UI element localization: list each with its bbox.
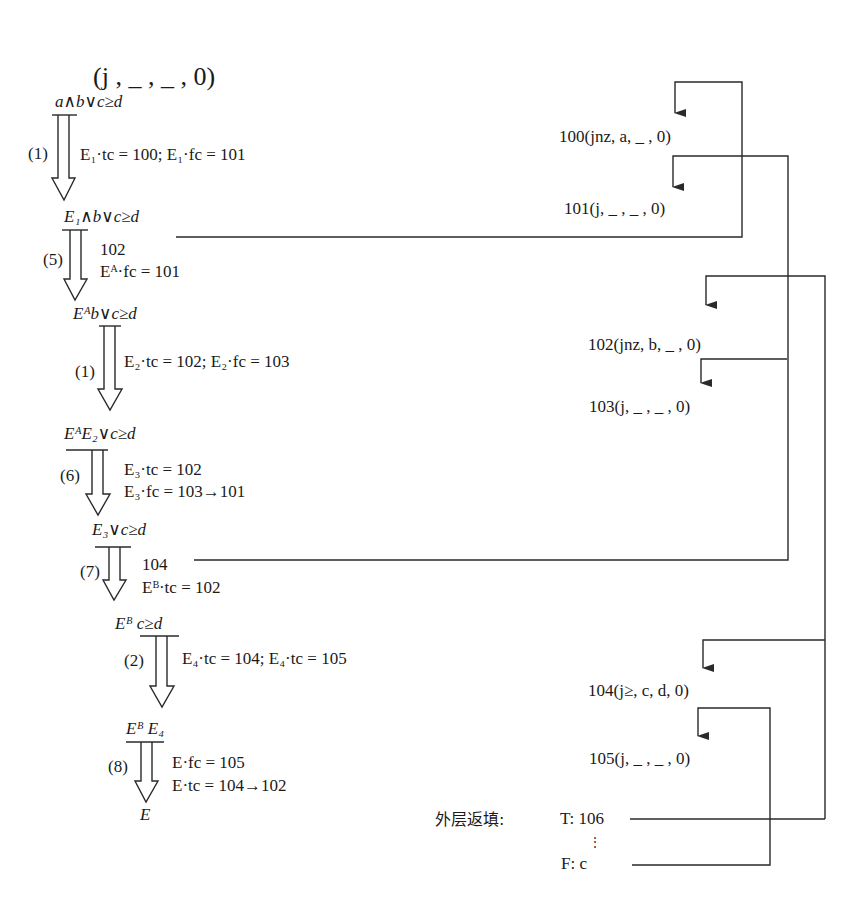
expression-6: Eᴮ E₄ [126,719,164,739]
rule-label: (2) [124,651,144,671]
ellipsis: ⋮ [589,832,601,852]
patch-line-102 [706,276,825,819]
derivation-arrow-8 [126,742,164,802]
true-exit: T: 106 [560,809,604,829]
expression-1: E₁∧b∨c≥d [64,207,139,227]
quadruple-103: 103(j, _ , _ , 0) [589,397,690,417]
backfill-label: 外层返填: [435,810,504,830]
step-annotation: E₁·tc = 100; E₁·fc = 101 [80,145,246,165]
rule-label: (5) [43,250,63,270]
quadruple-104: 104(j≥, c, d, 0) [588,681,689,701]
quadruple-100: 100(jnz, a, _ , 0) [559,127,671,147]
quadruple-101: 101(j, _ , _ , 0) [564,199,665,219]
expression-0: a∧b∨c≥d [55,92,122,112]
page-title: (j , _ , _ , 0) [93,62,215,92]
rule-label: (7) [80,562,100,582]
derivation-arrow-7 [95,547,131,600]
expression-2: Eᴬb∨c≥d [73,304,137,324]
derivation-arrow-1b [98,326,122,410]
expression-4: E₃∨c≥d [92,520,146,540]
step-annotation: Eᴮ·tc = 102 [142,578,220,598]
step-annotation: 102 [100,240,126,260]
step-annotation: E₃·tc = 102 [124,460,202,480]
step-annotation: E₄·tc = 104; E₄·tc = 105 [182,649,347,669]
expression-5: Eᴮ c≥d [115,614,162,634]
derivation-arrow-5 [62,230,88,300]
step-annotation: E₂·tc = 102; E₂·fc = 103 [124,352,290,372]
derivation-arrow-2 [140,636,179,707]
step-annotation: E·tc = 104→102 [172,776,286,796]
step-annotation: 104 [142,555,168,575]
patch-line-103 [701,359,787,383]
patch-line-104 [703,640,825,668]
step-annotation: E·fc = 105 [172,753,245,773]
rule-label: (1) [75,362,95,382]
connector-lines [0,0,853,899]
patch-line-105 [632,708,770,865]
step-annotation: Eᴬ·fc = 101 [100,262,180,282]
step-annotation: E₃·fc = 103→101 [124,482,245,502]
quadruple-102: 102(jnz, b, _ , 0) [588,335,701,355]
quadruple-105: 105(j, _ , _ , 0) [589,749,690,769]
rule-label: (8) [108,757,128,777]
expression-7: E [140,805,150,825]
expression-3: EᴬE₂∨c≥d [64,424,136,444]
false-exit: F: c [561,854,587,874]
rule-label: (1) [28,144,48,164]
rule-label: (6) [60,466,80,486]
derivation-arrow-1 [52,115,77,200]
backpatching-diagram: (j , _ , _ , 0) a∧b∨c≥d E₁∧b∨c≥d Eᴬb∨c≥d… [0,0,853,899]
